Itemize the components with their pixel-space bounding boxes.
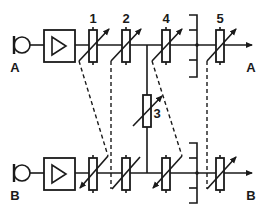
input-label-a: A [10, 60, 20, 75]
microphone-a-icon [14, 36, 30, 54]
potentiometer-1a [79, 27, 109, 65]
stereo-mixer-diagram: A A 1 2 4 5 3 [0, 0, 271, 215]
pot-label-3: 3 [153, 106, 160, 121]
pot-label-1: 1 [89, 11, 96, 26]
potentiometer-3-crossfeed: 3 [133, 45, 162, 173]
microphone-b-icon [14, 164, 30, 182]
pot-label-2: 2 [122, 11, 129, 26]
potentiometer-4b [153, 155, 182, 193]
output-label-a: A [246, 60, 256, 75]
pot-label-4: 4 [162, 11, 170, 26]
potentiometer-5a [207, 27, 236, 65]
output-bracket-a [189, 15, 199, 77]
channel-b: B B [10, 143, 255, 203]
potentiometer-2b [112, 155, 140, 193]
potentiometer-1b [80, 155, 108, 193]
output-label-b: B [246, 188, 255, 203]
potentiometer-4a [152, 27, 182, 65]
potentiometer-5b [207, 155, 236, 193]
potentiometer-2a [111, 27, 141, 65]
amplifier-a-icon [44, 30, 75, 62]
amplifier-b-icon [44, 158, 75, 190]
input-label-b: B [10, 188, 19, 203]
gang-link-1 [79, 61, 108, 156]
pot-label-5: 5 [216, 11, 223, 26]
